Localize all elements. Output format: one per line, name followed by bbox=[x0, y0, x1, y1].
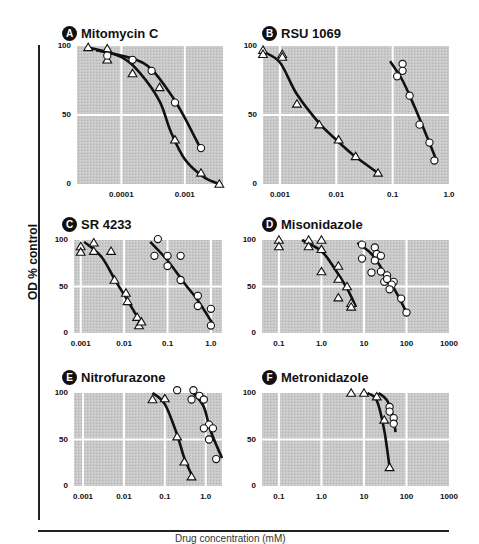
circle-marker-icon bbox=[406, 92, 413, 99]
circle-marker-icon bbox=[148, 67, 155, 74]
circle-marker-icon bbox=[390, 420, 397, 427]
x-tick-label: 1.0 bbox=[205, 339, 216, 348]
x-tick-label: 10 bbox=[360, 339, 369, 348]
circle-marker-icon bbox=[164, 252, 171, 259]
circle-marker-icon bbox=[399, 67, 406, 74]
y-tick-label: 0 bbox=[236, 481, 256, 490]
x-tick-label: 1.0 bbox=[316, 339, 327, 348]
x-tick-label: 1.0 bbox=[316, 492, 327, 501]
panel-title: BRSU 1069 bbox=[262, 26, 341, 41]
circle-marker-icon bbox=[394, 73, 401, 80]
circle-marker-icon bbox=[104, 52, 111, 59]
circle-marker-icon bbox=[386, 408, 393, 415]
circle-marker-icon bbox=[194, 292, 201, 299]
circle-marker-icon bbox=[190, 387, 197, 394]
circle-marker-icon bbox=[207, 305, 214, 312]
x-tick-label: 1.0 bbox=[443, 190, 454, 199]
panel-title-text: RSU 1069 bbox=[281, 26, 341, 41]
panel-d bbox=[262, 236, 449, 333]
panel-title-text: Metronidazole bbox=[281, 370, 368, 385]
circle-marker-icon bbox=[177, 276, 184, 283]
y-tick-label: 50 bbox=[236, 282, 256, 291]
y-tick-label: 0 bbox=[237, 179, 257, 188]
panel-letter-badge: F bbox=[262, 370, 277, 385]
panel-letter-badge: A bbox=[62, 26, 77, 41]
triangle-marker-icon bbox=[347, 389, 356, 396]
circle-marker-icon bbox=[129, 56, 136, 63]
panel-title: FMetronidazole bbox=[262, 370, 368, 385]
panel-title-text: Mitomycin C bbox=[81, 26, 158, 41]
x-tick-label: 0.01 bbox=[329, 190, 345, 199]
x-tick-label: 0.01 bbox=[116, 339, 132, 348]
circle-marker-icon bbox=[358, 241, 365, 248]
panel-title: AMitomycin C bbox=[62, 26, 158, 41]
x-tick-label: 0.01 bbox=[116, 492, 132, 501]
panel-c bbox=[74, 235, 222, 333]
circle-marker-icon bbox=[386, 286, 393, 293]
y-tick-label: 100 bbox=[48, 388, 68, 397]
panel-title: ENitrofurazone bbox=[62, 370, 166, 385]
triangle-marker-icon bbox=[360, 389, 369, 396]
circle-marker-icon bbox=[174, 387, 181, 394]
panel-title-text: Misonidazole bbox=[281, 217, 363, 232]
circle-marker-icon bbox=[371, 257, 378, 264]
circle-marker-icon bbox=[200, 396, 207, 403]
triangle-marker-icon bbox=[317, 236, 326, 243]
circle-marker-icon bbox=[403, 309, 410, 316]
circle-marker-icon bbox=[151, 252, 158, 259]
y-tick-label: 100 bbox=[237, 41, 257, 50]
x-tick-label: 0.0001 bbox=[109, 190, 133, 199]
panel-letter-badge: B bbox=[262, 26, 277, 41]
circle-marker-icon bbox=[399, 60, 406, 67]
y-tick-label: 100 bbox=[48, 235, 68, 244]
y-tick-label: 0 bbox=[48, 481, 68, 490]
y-tick-label: 50 bbox=[51, 110, 71, 119]
x-tick-label: 100 bbox=[400, 339, 413, 348]
circle-marker-icon bbox=[416, 121, 423, 128]
panel-title: DMisonidazole bbox=[262, 217, 363, 232]
x-tick-label: 0.001 bbox=[270, 190, 290, 199]
panel-letter-badge: C bbox=[62, 217, 77, 232]
y-tick-label: 100 bbox=[51, 41, 71, 50]
x-tick-label: 0.1 bbox=[273, 339, 284, 348]
panel-letter-badge: E bbox=[62, 370, 77, 385]
panel-f bbox=[262, 389, 449, 486]
panel-e bbox=[74, 387, 222, 486]
x-tick-label: 10 bbox=[360, 492, 369, 501]
x-tick-label: 0.001 bbox=[73, 492, 93, 501]
y-tick-label: 0 bbox=[236, 328, 256, 337]
circle-marker-icon bbox=[205, 436, 212, 443]
x-tick-label: 0.1 bbox=[387, 190, 398, 199]
y-tick-label: 50 bbox=[237, 110, 257, 119]
circle-marker-icon bbox=[358, 255, 365, 262]
circle-marker-icon bbox=[200, 425, 207, 432]
y-tick-label: 100 bbox=[236, 388, 256, 397]
panel-title: CSR 4233 bbox=[62, 217, 132, 232]
circle-marker-icon bbox=[177, 252, 184, 259]
circle-marker-icon bbox=[154, 235, 161, 242]
panel-title-text: SR 4233 bbox=[81, 217, 132, 232]
y-tick-label: 50 bbox=[48, 435, 68, 444]
y-tick-label: 100 bbox=[236, 235, 256, 244]
circle-marker-icon bbox=[213, 455, 220, 462]
y-tick-label: 50 bbox=[236, 435, 256, 444]
x-tick-label: 0.001 bbox=[175, 190, 195, 199]
y-tick-label: 0 bbox=[51, 179, 71, 188]
x-tick-label: 100 bbox=[400, 492, 413, 501]
circle-marker-icon bbox=[188, 396, 195, 403]
panel-a bbox=[77, 43, 224, 187]
x-tick-label: 0.1 bbox=[273, 492, 284, 501]
y-tick-label: 50 bbox=[48, 282, 68, 291]
circle-marker-icon bbox=[368, 269, 375, 276]
circle-marker-icon bbox=[426, 139, 433, 146]
circle-marker-icon bbox=[398, 295, 405, 302]
x-tick-label: 0.001 bbox=[71, 339, 91, 348]
x-tick-label: 1000 bbox=[440, 492, 458, 501]
circle-marker-icon bbox=[171, 99, 178, 106]
x-tick-label: 1.0 bbox=[200, 492, 211, 501]
circle-marker-icon bbox=[431, 157, 438, 164]
circle-marker-icon bbox=[209, 425, 216, 432]
panel-b bbox=[259, 46, 449, 184]
